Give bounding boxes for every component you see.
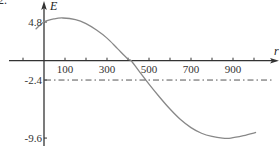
x-tick-label: 900 (225, 63, 242, 75)
x-tick-label: 700 (183, 63, 200, 75)
energy-curve (36, 18, 257, 138)
line-chart: 1003005007009004.8-2.4-9.6rE (0, 0, 280, 146)
y-tick-label: 4.8 (28, 16, 42, 28)
y-tick-label: -2.4 (25, 74, 43, 86)
axis-ticks (23, 22, 254, 138)
y-tick-label: -9.6 (25, 132, 43, 144)
x-axis-label: r (274, 44, 279, 58)
y-axis-label: E (49, 0, 58, 13)
x-tick-label: 300 (99, 63, 116, 75)
x-tick-label: 500 (141, 63, 158, 75)
x-tick-label: 100 (57, 63, 74, 75)
series-layer (36, 18, 273, 138)
axis-labels: 1003005007009004.8-2.4-9.6rE (25, 0, 279, 144)
